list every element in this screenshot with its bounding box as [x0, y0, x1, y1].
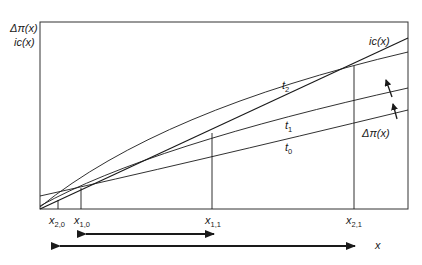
y-axis-label-dpi: Δπ(x): [10, 23, 38, 34]
t1-curve: [40, 88, 408, 206]
shift-arrow-icon-lower: [393, 104, 397, 119]
dpi-curve-label: Δπ(x): [362, 128, 390, 139]
y-axis-label-ic: ic(x): [14, 37, 35, 48]
tick-x11: x1,1: [205, 215, 221, 229]
tick-x10: x1,0: [74, 215, 90, 229]
t0-curve-label: t0: [285, 142, 292, 156]
t2-curve-label: t2: [282, 80, 289, 94]
ic-curve-label: ic(x): [369, 36, 390, 47]
tick-x21: x2,1: [346, 215, 362, 229]
x-axis-label: x: [375, 240, 381, 251]
plot-frame: [40, 22, 408, 209]
t1-curve-label: t1: [285, 120, 292, 134]
shift-arrow-icon-upper: [386, 80, 392, 97]
tick-x20: x2,0: [49, 215, 65, 229]
